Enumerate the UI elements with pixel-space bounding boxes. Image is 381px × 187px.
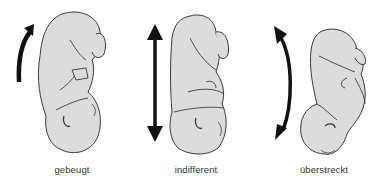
panel-extended: überstreckt <box>255 0 381 187</box>
fetus-body <box>170 15 229 154</box>
extended-fetus-illustration <box>255 0 381 187</box>
label-gebeugt: gebeugt <box>52 164 92 175</box>
label-indifferent: indifferent <box>171 164 221 175</box>
fetus-body <box>301 29 366 154</box>
panel-neutral: indifferent <box>130 0 255 187</box>
flexed-fetus-illustration <box>0 0 130 187</box>
curved-up-arrow-icon <box>19 24 34 82</box>
double-vertical-arrow-icon <box>147 24 163 142</box>
curved-double-arrow-icon <box>274 26 290 140</box>
neutral-fetus-illustration <box>130 0 255 187</box>
panel-flexed: gebeugt <box>0 0 130 187</box>
label-ueberstreckt: überstreckt <box>292 164 356 175</box>
fetus-body <box>38 12 105 153</box>
